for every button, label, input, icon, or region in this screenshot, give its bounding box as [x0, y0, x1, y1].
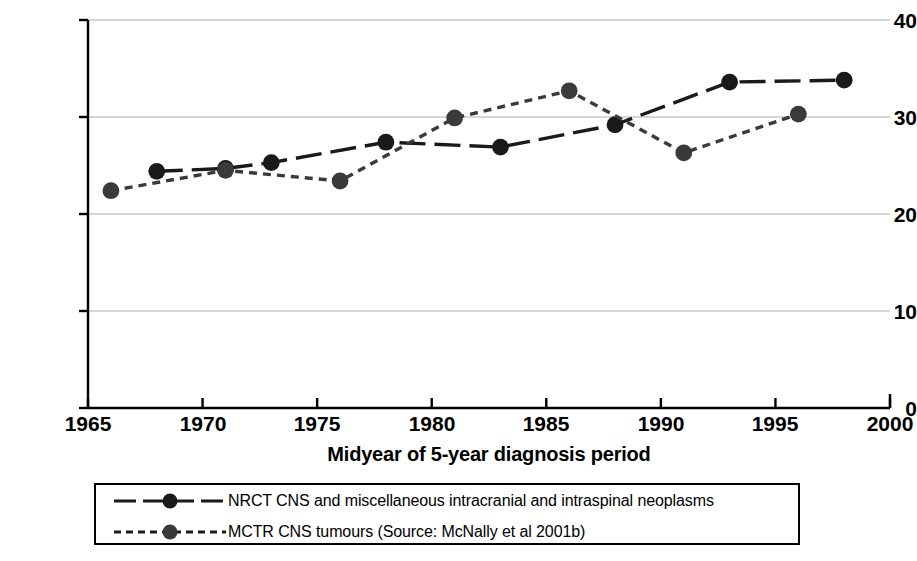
data-point — [332, 173, 349, 190]
data-point — [721, 74, 738, 91]
legend-label-mctr: MCTR CNS tumours (Source: McNally et al … — [228, 523, 585, 541]
data-point — [790, 106, 807, 123]
legend-swatch-mctr — [112, 519, 228, 545]
plot-area — [0, 0, 917, 470]
data-series-layer — [103, 72, 853, 199]
series-nrct — [148, 72, 852, 180]
data-point — [836, 72, 853, 89]
data-point — [675, 144, 692, 161]
data-point — [492, 139, 509, 156]
series-mctr — [103, 82, 807, 199]
data-point — [446, 110, 463, 127]
data-point — [103, 182, 120, 199]
data-point — [217, 162, 234, 179]
legend-entry-nrct: NRCT CNS and miscellaneous intracranial … — [96, 485, 798, 516]
gridlines — [88, 20, 890, 311]
legend-entry-mctr: MCTR CNS tumours (Source: McNally et al … — [96, 516, 798, 547]
legend: NRCT CNS and miscellaneous intracranial … — [94, 483, 800, 545]
chart-figure: ASR (world) per million child-years 40 3… — [0, 0, 917, 561]
data-point — [263, 154, 280, 171]
data-point — [377, 134, 394, 151]
legend-swatch-nrct — [112, 488, 228, 514]
data-point — [561, 82, 578, 99]
data-point — [148, 163, 165, 180]
legend-label-nrct: NRCT CNS and miscellaneous intracranial … — [228, 492, 714, 510]
